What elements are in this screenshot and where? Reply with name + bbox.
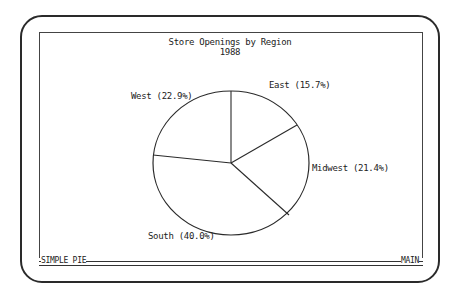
status-bar: SIMPLE PIE MAIN [39,258,423,268]
status-rule [39,261,423,266]
slice-divider-south-west [153,155,231,163]
slice-label-east: East (15.7%) [269,80,330,90]
status-left-label: SIMPLE PIE [41,256,86,265]
status-right-label: MAIN [401,256,419,265]
pie-chart [0,0,460,297]
slice-divider-east-midwest [231,125,297,163]
slice-label-midwest: Midwest (21.4%) [312,163,389,173]
slice-label-south: South (40.0%) [148,231,215,241]
slice-label-west: West (22.9%) [131,91,192,101]
slice-divider-midwest-south [231,163,289,215]
